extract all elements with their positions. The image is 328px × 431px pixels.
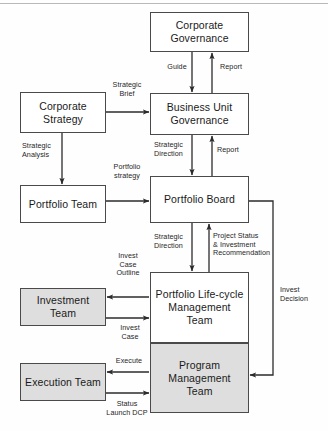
edge-label-strategic-brief: StrategicBrief <box>107 81 147 98</box>
node-program-management-team[interactable]: ProgramManagement Team <box>150 343 249 413</box>
diagram-canvas: CorporateGovernance CorporateStrategy Bu… <box>0 0 328 431</box>
node-label-portfolio-team: Portfolio Team <box>26 198 100 211</box>
node-portfolio-team[interactable]: Portfolio Team <box>20 185 106 223</box>
edge-label-execute: Execute <box>110 357 148 366</box>
node-label-corporate-strategy: CorporateStrategy <box>36 100 90 126</box>
node-portfolio-board[interactable]: Portfolio Board <box>150 176 249 223</box>
node-corporate-governance[interactable]: CorporateGovernance <box>150 12 249 52</box>
node-business-unit-governance[interactable]: Business UnitGovernance <box>150 93 249 135</box>
node-label-business-unit-governance: Business UnitGovernance <box>164 101 236 127</box>
node-label-program-management-team: ProgramManagement Team <box>151 359 248 398</box>
node-execution-team[interactable]: Execution Team <box>20 363 106 401</box>
edge-label-invest-decision: InvestDecision <box>280 286 324 303</box>
edge-label-invest-case: InvestCase <box>112 324 148 341</box>
node-label-portfolio-board: Portfolio Board <box>161 193 238 206</box>
node-portfolio-lifecycle-management-team[interactable]: Portfolio Life-cycleManagementTeam <box>150 272 249 343</box>
edge-invest-decision <box>249 201 273 375</box>
edge-label-report-bug: Report <box>217 146 249 155</box>
edge-label-portfolio-strategy: Portfoliostrategy <box>107 163 147 180</box>
edge-label-status-launch-dcp: StatusLaunch DCP <box>104 400 150 417</box>
node-label-investment-team: Investment Team <box>21 294 105 320</box>
node-investment-team[interactable]: Investment Team <box>20 288 106 326</box>
node-label-corporate-governance: CorporateGovernance <box>167 19 231 45</box>
edge-label-report-cg: Report <box>215 63 247 72</box>
edge-label-project-status: Project Status& InvestmentRecommendation <box>213 232 269 258</box>
edge-label-guide: Guide <box>163 63 191 72</box>
edge-label-strategic-analysis: StrategicAnalysis <box>22 142 62 159</box>
edge-label-strategic-direction-bug: StrategicDirection <box>154 141 194 158</box>
node-corporate-strategy[interactable]: CorporateStrategy <box>20 92 106 133</box>
edge-label-strategic-direction-pb: StrategicDirection <box>154 233 194 250</box>
edge-label-invest-case-outline: InvestCaseOutline <box>110 252 146 278</box>
node-label-portfolio-lifecycle-management-team: Portfolio Life-cycleManagementTeam <box>153 288 247 327</box>
node-label-execution-team: Execution Team <box>22 376 104 389</box>
